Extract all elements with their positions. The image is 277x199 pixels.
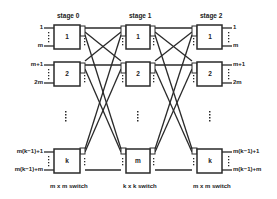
input-label-2m: 2m: [34, 79, 43, 86]
output-label-m: m: [233, 42, 238, 49]
input-label-mk-first: m(k−1)+1: [17, 148, 43, 155]
stage2-box1-label: 1: [198, 33, 222, 40]
stage1-box2-label: 2: [126, 70, 150, 77]
stage2-box2-label: 2: [198, 70, 222, 77]
stage1-box1-label: 1: [126, 33, 150, 40]
stage-1-title: stage 1: [129, 12, 151, 19]
clos-network-diagram: stage 0 stage 1 stage 2 1 2 k 1 2 m 1 2 …: [0, 0, 277, 199]
stage-2-title: stage 2: [200, 12, 222, 19]
input-label-mk-last: m(k−1)+m: [15, 166, 43, 173]
stage-1-switch-caption: k x k switch: [123, 183, 157, 190]
output-label-1: 1: [233, 24, 236, 31]
output-label-m-plus-1: m+1: [233, 61, 245, 68]
output-label-2m: 2m: [233, 79, 242, 86]
stage-0-title: stage 0: [57, 12, 79, 19]
stage0-box2-label: 2: [55, 70, 79, 77]
input-label-m: m: [38, 42, 43, 49]
stage0-boxk-label: k: [55, 157, 79, 164]
input-label-1: 1: [40, 24, 43, 31]
stage-2-switch-caption: m x m switch: [193, 183, 231, 190]
input-label-m-plus-1: m+1: [31, 61, 43, 68]
stage1-boxm-label: m: [126, 157, 150, 164]
stage2-boxk-label: k: [198, 157, 222, 164]
stage-0-switch-caption: m x m switch: [50, 183, 88, 190]
stage0-box1-label: 1: [55, 33, 79, 40]
output-label-mk-first: m(k−1)+1: [233, 148, 259, 155]
output-label-mk-last: m(k−1)+m: [233, 166, 261, 173]
